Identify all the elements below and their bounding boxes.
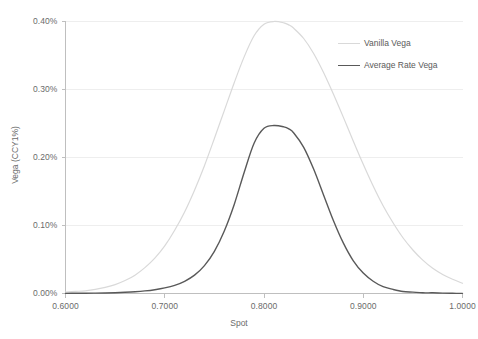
y-tick-label: 0.10% [12,220,58,230]
legend-swatch-icon [338,43,360,44]
chart-legend: Vanilla VegaAverage Rate Vega [338,32,438,76]
x-tick-label: 0.8000 [234,301,294,311]
x-tick-label: 0.7000 [135,301,195,311]
vega-line-chart: 0.00%0.10%0.20%0.30%0.40% 0.60000.70000.… [0,0,478,339]
legend-item-label: Average Rate Vega [364,60,438,70]
x-tick-label: 1.0000 [433,301,478,311]
series-line-1 [66,126,463,294]
y-tick-label: 0.30% [12,84,58,94]
legend-item-label: Vanilla Vega [364,38,411,48]
legend-item[interactable]: Average Rate Vega [338,54,438,76]
y-axis-title: Vega (CCY1%) [10,110,20,200]
legend-item[interactable]: Vanilla Vega [338,32,438,54]
x-tick-label: 0.9000 [333,301,393,311]
x-tick-label: 0.6000 [36,301,96,311]
y-tick-label: 0.40% [12,16,58,26]
legend-swatch-icon [338,65,360,66]
x-axis-title: Spot [0,318,478,328]
y-tick-label: 0.00% [12,288,58,298]
